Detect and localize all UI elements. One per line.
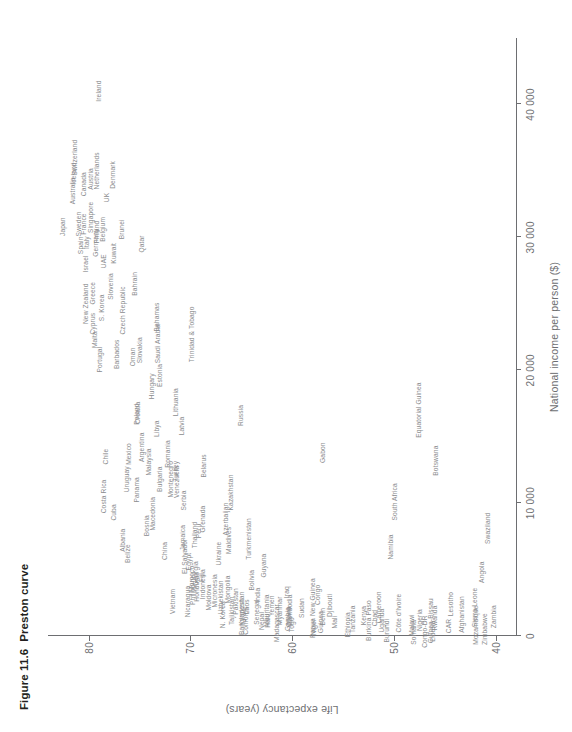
country-point-label: Mali (332, 616, 339, 629)
country-point-label: Bahamas (154, 303, 161, 332)
country-point-label: Uzbekistan (218, 580, 225, 614)
country-point-label: Iraq (284, 586, 291, 598)
country-point-label: Argentina (138, 433, 145, 463)
country-point-label: Cyprus (89, 313, 96, 335)
country-point-label: Turkey (173, 461, 180, 482)
country-point-label: Costa Rica (101, 480, 108, 514)
country-point-label: Russia (238, 405, 245, 426)
country-point-label: Denmark (110, 161, 117, 189)
country-point-label: Uganda (378, 609, 385, 633)
country-point-label: Malawi (409, 614, 416, 635)
country-point-label: Romania (165, 440, 172, 467)
country-point-label: Myanmar (277, 597, 284, 626)
country-point-label: Slovakia (136, 337, 143, 363)
country-point-label: Barbados (114, 340, 121, 369)
country-point-label: Poland (133, 403, 140, 424)
country-point-label: Ukraine (216, 542, 223, 566)
country-point-label: Ireland (96, 81, 103, 102)
country-point-label: UAE (101, 254, 108, 268)
country-point-label: Kyrgyzstan (239, 592, 246, 626)
figure-page: Figure 11.6Preston curve 4050607080 010 … (0, 0, 572, 732)
country-point-label: Greece (89, 282, 96, 305)
country-point-label: UK (104, 193, 111, 202)
country-point-label: Albania (120, 529, 127, 552)
country-point-label: Afghanistan (459, 596, 466, 632)
country-point-label: Swaziland (484, 513, 491, 544)
x-tick-label: 40 000 (525, 88, 536, 120)
country-point-label: Austria (87, 168, 94, 190)
country-point-label: Zambia (490, 605, 497, 628)
rotated-figure-canvas: Figure 11.6Preston curve 4050607080 010 … (0, 0, 572, 732)
country-point-label: Spain (77, 237, 84, 255)
scatter-plot-area: 4050607080 010 00020 00030 00040 000 Zam… (48, 38, 516, 636)
country-point-label: S. Korea (99, 294, 106, 321)
country-point-label: Portugal (97, 347, 104, 373)
country-point-label: Kuwait (111, 243, 118, 264)
x-axis-label: National income per person ($) (548, 262, 560, 412)
figure-title-text: Preston curve (18, 564, 30, 642)
country-point-label: Nigeria (417, 609, 424, 631)
country-point-label: El Salvador (182, 539, 189, 574)
country-point-label: Uruguay (124, 466, 131, 492)
country-point-label: Zimbabwe (482, 613, 489, 645)
country-point-label: South Africa (392, 483, 399, 520)
country-point-label: Benin (319, 608, 326, 626)
x-tick-label: 20 000 (525, 354, 536, 386)
country-point-label: Belgium (100, 217, 107, 242)
country-point-label: Kenya (361, 606, 368, 625)
country-point-label: Sierra Leone (472, 588, 479, 628)
country-point-label: Gabon (319, 442, 326, 463)
country-point-label: Cambodia (287, 594, 294, 625)
country-point-label: Japan (60, 217, 67, 236)
country-point-label: Malaysia (145, 448, 152, 475)
figure-number: Figure 11.6 (18, 649, 30, 710)
y-tick-label: 60 (287, 642, 298, 654)
country-point-label: Ethiopia (345, 612, 352, 637)
country-point-label: Brunei (119, 219, 126, 239)
country-point-label: Thailand (191, 522, 198, 549)
x-tick-mark (516, 369, 521, 370)
y-tick-mark (89, 636, 90, 641)
y-axis-line (48, 635, 516, 636)
country-point-label: Bahrain (132, 272, 139, 296)
country-point-label: Panama (133, 477, 140, 502)
country-point-label: Israel (82, 255, 89, 272)
country-point-label: Finland (94, 221, 101, 244)
country-point-label: Czech Republic (120, 286, 127, 334)
country-point-label: Tajikistan (229, 596, 236, 625)
figure-caption: Figure 11.6Preston curve (18, 564, 30, 710)
country-point-label: Qatar (138, 235, 145, 252)
country-point-label: Estonia (157, 364, 164, 387)
country-point-label: Turkmenistan (246, 518, 253, 560)
country-point-label: Guinea-Bissau (427, 598, 434, 643)
y-tick-label: 80 (83, 642, 94, 654)
x-axis-line (516, 38, 517, 636)
country-point-label: Côte d'Ivoire (396, 594, 403, 633)
country-point-label: Namibia (388, 534, 395, 559)
country-point-label: Kazakhstan (228, 475, 235, 511)
country-point-label: Congo (314, 585, 321, 605)
country-point-label: Maldives (226, 527, 233, 554)
country-point-label: Canada (80, 172, 87, 196)
country-point-label: CAR (446, 619, 453, 633)
x-tick-mark (516, 103, 521, 104)
y-axis-label: Life expectancy (years) (225, 704, 338, 716)
y-tick-label: 70 (185, 642, 196, 654)
country-point-label: Oman (130, 348, 137, 367)
country-point-label: Italy (83, 236, 90, 249)
country-point-label: Slovenia (108, 273, 115, 300)
country-point-label: Netherlands (94, 152, 101, 189)
country-point-label: Bulgaria (157, 467, 164, 492)
country-point-label: Vietnam (170, 589, 177, 614)
country-point-label: Angola (479, 562, 486, 583)
country-point-label: Latvia (179, 417, 186, 436)
country-point-label: Belarus (200, 454, 207, 477)
country-point-label: China (162, 542, 169, 560)
country-point-label: Grenada (199, 506, 206, 533)
country-point-label: Lithuania (173, 388, 180, 416)
country-point-label: Lesotho (448, 592, 455, 617)
country-point-label: Botswana (432, 446, 439, 476)
x-tick-label: 0 (525, 633, 536, 639)
country-point-label: Libya (154, 420, 161, 437)
country-point-label: Mexico (126, 443, 133, 465)
